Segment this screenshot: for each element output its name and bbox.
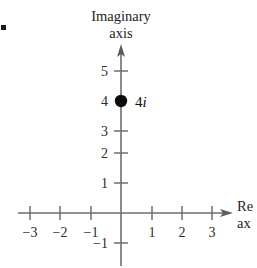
imaginary-axis-title-line1: Imaginary [91, 8, 151, 24]
real-axis-title-line1: Re [237, 198, 253, 214]
imaginary-axis-title-line2: axis [109, 25, 133, 41]
edge-bullet-mark [1, 25, 6, 30]
tick-label-real-neg3: −3 [23, 225, 38, 240]
argand-diagram-figure: 5 4 3 2 1 −1 −3 −2 −1 1 2 3 4i [0, 0, 257, 268]
data-point-4i [115, 95, 127, 107]
tick-label-imag-5: 5 [101, 64, 108, 79]
data-point-label-4i: 4i [135, 94, 147, 110]
real-axis-tick-labels: −3 −2 −1 1 2 3 [23, 225, 216, 240]
complex-plane-plot: 5 4 3 2 1 −1 −3 −2 −1 1 2 3 4i [0, 0, 257, 268]
tick-label-imag-2: 2 [101, 146, 108, 161]
tick-label-imag-4: 4 [101, 94, 108, 109]
tick-label-imag-1: 1 [101, 176, 108, 191]
tick-label-imag-3: 3 [101, 124, 108, 139]
data-point-label-imaginary-unit: i [143, 94, 147, 110]
tick-label-real-neg1: −1 [84, 225, 99, 240]
tick-label-real-neg2: −2 [53, 225, 68, 240]
tick-label-real-1: 1 [149, 225, 156, 240]
tick-label-real-3: 3 [209, 225, 216, 240]
tick-label-real-2: 2 [179, 225, 186, 240]
real-axis-title-line2: ax [237, 215, 251, 231]
imaginary-axis-tick-labels: 5 4 3 2 1 −1 [93, 64, 108, 251]
